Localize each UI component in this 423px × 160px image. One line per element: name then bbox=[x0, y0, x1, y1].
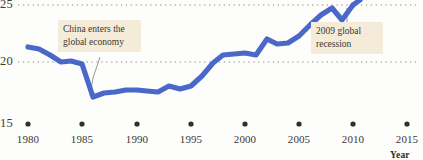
x-tick-label-1980: 1980 bbox=[6, 133, 50, 145]
x-tick-dot-1990 bbox=[134, 121, 139, 126]
recession-annotation-box: 2009 global recession bbox=[311, 22, 383, 54]
x-axis-tick-dots bbox=[25, 121, 409, 126]
china-annotation-box: China enters the global economy bbox=[58, 20, 141, 52]
x-tick-label-2010: 2010 bbox=[331, 133, 375, 145]
x-tick-dot-1980 bbox=[25, 121, 30, 126]
x-tick-label-1990: 1990 bbox=[115, 133, 159, 145]
x-tick-label-2000: 2000 bbox=[223, 133, 267, 145]
x-tick-label-2005: 2005 bbox=[277, 133, 321, 145]
x-tick-label-1995: 1995 bbox=[169, 133, 213, 145]
y-tick-label-25: 25 bbox=[0, 0, 13, 12]
x-axis-title: Year bbox=[390, 150, 410, 160]
x-tick-dot-2015 bbox=[404, 121, 409, 126]
x-tick-dot-2005 bbox=[296, 121, 301, 126]
x-tick-label-2015: 2015 bbox=[385, 133, 423, 145]
y-tick-label-15: 15 bbox=[0, 116, 13, 131]
x-tick-dot-2000 bbox=[242, 121, 247, 126]
x-tick-dot-1985 bbox=[79, 121, 84, 126]
x-tick-label-1985: 1985 bbox=[60, 133, 104, 145]
data-line-series-extension bbox=[353, 0, 360, 5]
x-tick-dot-1995 bbox=[188, 121, 193, 126]
y-tick-label-20: 20 bbox=[0, 54, 13, 69]
x-tick-dot-2010 bbox=[350, 121, 355, 126]
